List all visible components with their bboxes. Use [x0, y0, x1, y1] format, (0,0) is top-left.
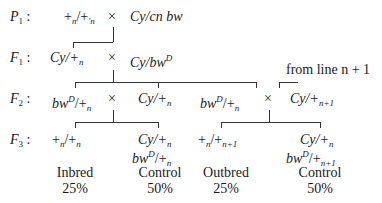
- generation-label-p1: P1 :: [10, 9, 30, 29]
- f3-outcome-control2-percent: 50%: [290, 181, 350, 197]
- p1-right-genotype: Cy/cn bw: [130, 9, 183, 25]
- f3-outcome-outbred-percent: 25%: [196, 181, 256, 197]
- f3-outcome-inbred-percent: 25%: [45, 181, 105, 197]
- p1-cross-symbol: ×: [108, 9, 116, 25]
- generation-label-f1: F1 :: [10, 50, 30, 70]
- p1-left-genotype: +n/+′n: [64, 9, 95, 29]
- f1-left-genotype: Cy/+n: [50, 50, 83, 70]
- f2-cross2-symbol: ×: [264, 91, 272, 107]
- f2-cross1-symbol: ×: [108, 91, 116, 107]
- from-line-annotation: from line n + 1: [286, 62, 370, 78]
- generation-label-f3: F3 :: [10, 132, 30, 152]
- f3-outcome-outbred-category: Outbred: [196, 165, 256, 181]
- f3-outcome-inbred-genotype: +n/+n: [52, 132, 81, 152]
- f2-cross2-right-genotype: Cy/+n+1: [290, 91, 334, 111]
- f3-outcome-outbred-genotype: +n/+n+1: [198, 132, 237, 152]
- f3-outcome-control1-category: Control: [130, 165, 190, 181]
- f2-cross1-right-genotype: Cy/+n: [138, 91, 171, 111]
- f2-cross1-left-genotype: bwD/+n: [52, 91, 91, 116]
- f3-outcome-control1-percent: 50%: [130, 181, 190, 197]
- f3-outcome-inbred-category: Inbred: [45, 165, 105, 181]
- f2-cross2-left-genotype: bwD/+n: [200, 91, 239, 116]
- f3-outcome-control2-category: Control: [290, 165, 350, 181]
- f1-right-genotype: Cy/bwD: [130, 50, 172, 71]
- generation-label-f2: F2 :: [10, 91, 30, 111]
- f1-cross-symbol: ×: [108, 50, 116, 66]
